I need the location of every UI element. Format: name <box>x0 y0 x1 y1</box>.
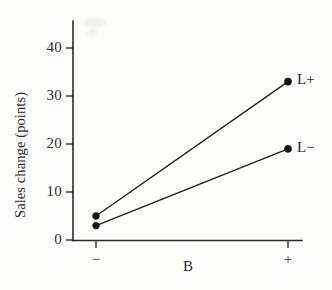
series-line-l-minus <box>96 149 288 226</box>
interaction-plot-figure: 40 30 20 10 0 − + Sales change (points) … <box>0 0 332 290</box>
series-label-l-minus: L− <box>297 139 315 156</box>
y-tick-label-0: 0 <box>22 231 62 248</box>
data-point-l-minus-plus <box>284 145 291 152</box>
y-axis-title: Sales change (points) <box>12 92 29 218</box>
y-tick-label-40: 40 <box>22 39 62 56</box>
x-axis-title: B <box>0 258 332 275</box>
data-point-l-minus-minus <box>93 222 100 229</box>
data-point-l-plus-minus <box>93 213 100 220</box>
series-line-l-plus <box>96 82 288 216</box>
series-label-l-plus: L+ <box>297 71 315 88</box>
data-point-l-plus-plus <box>284 78 291 85</box>
